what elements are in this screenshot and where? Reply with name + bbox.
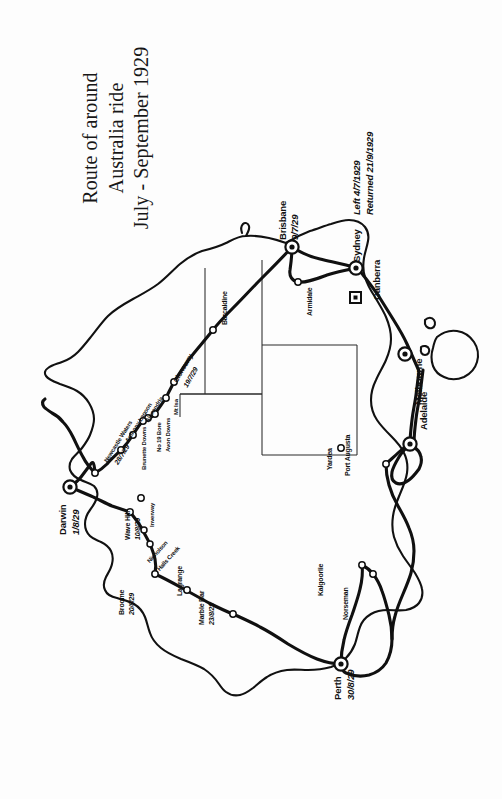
- city-marker-canberra: [350, 292, 361, 303]
- waypoint-marble-bar: [230, 611, 236, 617]
- label-brisbane: Brisbane: [278, 201, 289, 240]
- label-lagrange: Lagrange: [176, 566, 184, 596]
- city-marker-adelaide: [403, 437, 416, 450]
- label-perth-date: 30/8/29: [346, 670, 357, 700]
- map-page: Route of around Australia ride July - Se…: [0, 0, 502, 799]
- label-sydney-left: Left 4/7/1929: [352, 161, 363, 215]
- waypoint-newcastle-waters: [92, 470, 98, 476]
- label-broome: Broome: [118, 590, 126, 615]
- waypoint-halls-creek: [147, 541, 153, 547]
- city-marker-darwin: [63, 480, 76, 493]
- label-avon-downs: Avon Downs: [165, 418, 172, 452]
- label-barcaldine: Barcaldine: [221, 291, 229, 325]
- label-kalgoorlie: Kalgoorlie: [317, 564, 325, 596]
- label-norseman: Norseman: [342, 587, 350, 620]
- waypoint-armidale: [295, 279, 301, 285]
- waypoint-norseman: [370, 571, 376, 577]
- label-inverway: Inverway: [149, 503, 156, 527]
- waypoint-lagrange: [184, 587, 190, 593]
- label-darwin: Darwin: [58, 505, 69, 535]
- label-brunette-downs: Brunette Downs: [141, 427, 148, 470]
- label-wave-hill-date: 10/8/29: [134, 518, 142, 540]
- label-marble-bar-date: 23/8/29: [208, 603, 216, 625]
- label-armidale: Armidale: [306, 288, 314, 316]
- label-brisbane-date: 9/7/29: [290, 215, 301, 240]
- label-adelaide: Adelaide: [419, 392, 430, 430]
- waypoint-kalgoorlie: [359, 562, 365, 568]
- label-wave-hill: Wave Hill: [124, 511, 132, 540]
- waypoint-inverway: [138, 495, 144, 501]
- label-darwin-date: 1/8/29: [71, 510, 82, 535]
- label-mt-isa: Mt Isa: [173, 399, 180, 415]
- waypoint-barcaldine: [210, 327, 216, 333]
- label-sydney: Sydney: [352, 229, 363, 262]
- city-marker-sydney: [349, 261, 362, 274]
- label-yardea: Yardea: [326, 448, 334, 470]
- label-perth: Perth: [333, 677, 344, 700]
- label-no19-bore: No 19 Bore: [156, 422, 163, 452]
- waypoint-nicholson: [141, 527, 147, 533]
- label-broome-date: 20/8/29: [128, 593, 136, 615]
- state-borders: [180, 260, 357, 455]
- label-canberra: Canberra: [372, 260, 383, 300]
- label-brisbane-name: Brisbane: [278, 201, 289, 240]
- waypoint-broome: [152, 571, 158, 577]
- label-sydney-returned: Returned 21/9/1929: [365, 132, 376, 215]
- city-marker-brisbane: [285, 240, 298, 253]
- label-marble-bar: Marble Bar: [198, 591, 206, 625]
- city-marker-melbourne: [398, 347, 411, 360]
- label-port-augusta: Port Augusta: [344, 435, 352, 476]
- city-marker-perth: [334, 657, 347, 670]
- label-sydney-name: Sydney: [352, 229, 363, 262]
- waypoint-port-augusta: [383, 461, 389, 467]
